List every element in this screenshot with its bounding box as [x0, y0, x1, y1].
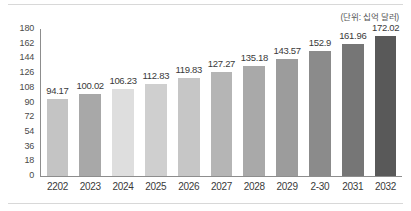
bar-group: 143.57: [271, 29, 304, 176]
bar-group: 152.9: [304, 29, 337, 176]
bar[interactable]: [342, 44, 364, 176]
bar-value-label: 135.18: [241, 52, 268, 63]
bar[interactable]: [309, 51, 331, 176]
x-tick-label: 2-30: [304, 181, 337, 192]
x-tick-label: 2025: [139, 181, 172, 192]
y-tick-label: 108: [0, 83, 34, 92]
bar[interactable]: [211, 72, 233, 176]
x-tick-label: 2027: [205, 181, 238, 192]
bar-group: 135.18: [238, 29, 271, 176]
bar-value-label: 161.96: [339, 30, 366, 41]
y-tick-label: 180: [0, 24, 34, 33]
bar-group: 161.96: [336, 29, 369, 176]
x-tick-label: 2202: [41, 181, 74, 192]
y-tick-label: 0: [0, 171, 34, 180]
bar-group: 127.27: [205, 29, 238, 176]
bar-value-label: 127.27: [208, 58, 235, 69]
bar-value-label: 94.17: [46, 85, 68, 96]
bar-value-label: 143.57: [273, 45, 300, 56]
bar-group: 94.17: [41, 29, 74, 176]
bar[interactable]: [145, 84, 167, 176]
x-tick-label: 2026: [172, 181, 205, 192]
x-tick-label: 2028: [238, 181, 271, 192]
bar[interactable]: [112, 89, 134, 176]
bar-series: 94.17100.02106.23112.83119.83127.27135.1…: [41, 29, 402, 176]
y-tick-label: 36: [0, 142, 34, 151]
y-tick-label: 162: [0, 39, 34, 48]
bar[interactable]: [79, 94, 101, 176]
y-tick-label: 90: [0, 98, 34, 107]
bar-value-label: 119.83: [175, 64, 202, 75]
bar-group: 172.02: [369, 29, 402, 176]
bar[interactable]: [47, 99, 69, 176]
y-tick-label: 126: [0, 68, 34, 77]
y-tick-label: 18: [0, 156, 34, 165]
x-axis-line: [40, 176, 402, 177]
x-tick-label: 2023: [74, 181, 107, 192]
bar-value-label: 172.02: [372, 22, 399, 33]
bar-value-label: 106.23: [109, 75, 136, 86]
x-tick-label: 2024: [107, 181, 140, 192]
y-tick-label: 144: [0, 53, 34, 62]
x-tick-label: 2029: [271, 181, 304, 192]
bar[interactable]: [178, 78, 200, 176]
bar-value-label: 100.02: [77, 80, 104, 91]
x-tick-label: 2031: [336, 181, 369, 192]
bar-group: 106.23: [107, 29, 140, 176]
x-tick-label: 2032: [369, 181, 402, 192]
chart-figure: (단위: 십억 달러) 18016214412610890725436180 9…: [0, 0, 411, 211]
bar[interactable]: [375, 36, 397, 176]
y-tick-label: 72: [0, 112, 34, 121]
bar-value-label: 112.83: [143, 70, 170, 81]
bar-group: 100.02: [74, 29, 107, 176]
bar[interactable]: [243, 66, 265, 176]
y-tick-label: 54: [0, 127, 34, 136]
bar[interactable]: [276, 59, 298, 176]
bar-group: 119.83: [172, 29, 205, 176]
bar-value-label: 152.9: [309, 37, 331, 48]
plot-area: 18016214412610890725436180 94.17100.0210…: [0, 0, 411, 211]
bar-group: 112.83: [139, 29, 172, 176]
